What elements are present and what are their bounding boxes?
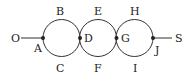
label-b: B <box>56 5 64 18</box>
label-g: G <box>121 32 130 45</box>
label-a: A <box>33 42 43 55</box>
node-j-dot <box>151 36 155 40</box>
label-i: I <box>133 62 137 75</box>
circle-1 <box>43 20 80 57</box>
circle-path-diagram: O A B C D E F G H I J S <box>0 0 191 77</box>
label-d: D <box>84 32 93 45</box>
label-h: H <box>130 5 140 18</box>
label-j: J <box>154 44 159 57</box>
node-a-dot <box>41 36 45 40</box>
label-s: S <box>175 32 183 45</box>
node-g-dot <box>115 36 119 40</box>
label-o: O <box>11 32 20 45</box>
label-e: E <box>94 5 102 18</box>
node-d-dot <box>78 36 82 40</box>
label-f: F <box>94 62 102 75</box>
label-c: C <box>56 62 64 75</box>
